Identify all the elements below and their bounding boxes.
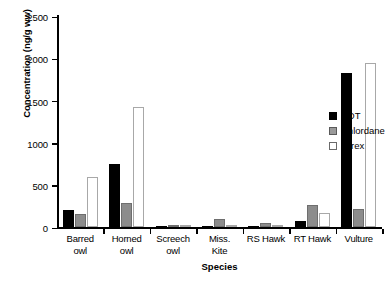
legend-label-mirex: Mirex [341,138,364,153]
bar-chlordane [260,223,271,227]
x-tick [382,229,384,234]
bar-mirex [226,225,237,227]
bar-mirex [272,225,283,227]
y-tick-label-1000: 1000 [27,138,48,149]
bar-chlordane [75,214,86,227]
bar-chlordane [121,203,132,227]
bar-set [150,18,196,227]
y-axis-title: Concentration (ng/g ww) [21,0,32,154]
chart-legend: DDT Chlordane Mirex [329,108,385,153]
bar-ddt [109,164,120,227]
bar-mirex [87,177,98,227]
y-tick-label-500: 500 [32,181,48,192]
legend-swatch-ddt [329,112,337,120]
bar-chart-figure: Concentration (ng/g ww) 0 500 1000 1500 … [0,0,388,281]
bar-ddt [295,221,306,227]
y-tick-label-0: 0 [43,223,48,234]
legend-label-ddt: DDT [341,108,361,123]
x-tick-label: RS Hawk [243,233,289,245]
bar-mirex [319,213,330,227]
bar-ddt [63,210,74,227]
bar-group [243,18,289,227]
bar-ddt [202,226,213,227]
x-tick-label: Barred owl [57,233,103,257]
bar-ddt [156,226,167,227]
bar-set [103,18,149,227]
bar-group [57,18,103,227]
bar-chlordane [307,205,318,227]
bar-set [243,18,289,227]
x-axis-title: Species [57,261,382,272]
legend-swatch-mirex [329,142,337,150]
bar-chlordane [214,219,225,227]
bar-ddt [248,226,259,227]
bar-mirex [180,225,191,227]
bar-set [57,18,103,227]
x-tick-label: Miss. Kite [196,233,242,257]
bar-mirex [133,107,144,227]
bar-set [196,18,242,227]
legend-item-mirex: Mirex [329,138,385,153]
legend-item-chlordane: Chlordane [329,123,385,138]
y-tick-label-2000: 2000 [27,54,48,65]
y-tick-label-1500: 1500 [27,96,48,107]
bar-group [196,18,242,227]
x-tick-label: Screech owl [150,233,196,257]
x-tick-label: Horned owl [103,233,149,257]
y-tick-label-2500: 2500 [27,12,48,23]
y-tick-0: 0 [52,228,57,230]
legend-item-ddt: DDT [329,108,385,123]
bar-group [103,18,149,227]
x-tick-label: Vulture [336,233,382,245]
legend-label-chlordane: Chlordane [341,123,385,138]
bar-chlordane [168,225,179,227]
legend-swatch-chlordane [329,127,337,135]
bar-chlordane [353,209,364,227]
x-tick-label: RT Hawk [289,233,335,245]
bar-group [150,18,196,227]
x-axis-line [57,227,382,229]
